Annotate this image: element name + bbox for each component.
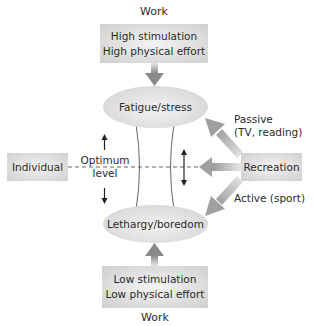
high-stimulation-label: High stimulation xyxy=(111,29,197,44)
passive-line2: (TV, reading) xyxy=(234,126,302,139)
low-physical-effort-label: Low physical effort xyxy=(106,287,205,302)
recreation-box: Recreation xyxy=(241,153,302,181)
arrow-up-to-lethargy xyxy=(145,243,164,266)
individual-label: Individual xyxy=(12,160,63,175)
high-physical-effort-label: High physical effort xyxy=(103,44,205,59)
active-sport-label: Active (sport) xyxy=(234,192,305,205)
top-work-caption: Work xyxy=(100,5,208,18)
lethargy-boredom-label: Lethargy/boredom xyxy=(107,218,204,230)
optimum-up-arrow-icon xyxy=(102,134,108,150)
passive-line1: Passive xyxy=(234,113,302,126)
arrow-down-to-fatigue xyxy=(145,63,164,86)
low-stimulation-box: Low stimulation Low physical effort xyxy=(102,266,208,308)
optimum-level-label: Optimum level xyxy=(78,154,132,180)
recreation-label: Recreation xyxy=(243,160,299,175)
optimum-label: Optimum xyxy=(78,154,132,167)
low-stimulation-label: Low stimulation xyxy=(114,272,197,287)
individual-box: Individual xyxy=(7,153,68,181)
level-label: level xyxy=(78,167,132,180)
arrow-left-to-optimum xyxy=(199,157,241,177)
fatigue-stress-ellipse: Fatigue/stress xyxy=(103,86,208,128)
passive-label: Passive (TV, reading) xyxy=(234,113,302,139)
fatigue-stress-label: Fatigue/stress xyxy=(119,101,192,113)
lethargy-boredom-ellipse: Lethargy/boredom xyxy=(103,205,208,243)
bottom-work-caption: Work xyxy=(102,311,208,324)
optimum-down-arrow-icon xyxy=(102,188,108,204)
high-stimulation-box: High stimulation High physical effort xyxy=(100,24,208,63)
